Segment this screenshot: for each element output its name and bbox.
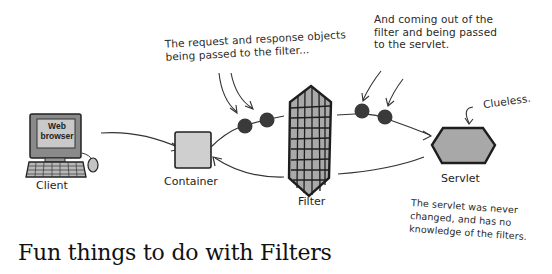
passed-object-ball <box>355 104 370 119</box>
filter-shape <box>289 86 331 196</box>
annotation-servlet-note: The servlet was never changed, and has n… <box>409 196 529 243</box>
annotation-line: filter and being passed <box>374 26 497 39</box>
screen-line-web: Web <box>39 121 75 131</box>
container-label: Container <box>164 175 218 188</box>
passed-object-ball <box>378 110 393 125</box>
request-object-ball <box>238 119 253 134</box>
response-object-ball <box>260 113 275 128</box>
filter-label: Filter <box>298 195 325 208</box>
annotation-line: And coming out of the <box>374 13 497 26</box>
section-title: Fun things to do with Filters <box>18 240 332 265</box>
arrow-client-to-container <box>101 133 180 148</box>
line-filter-to-container <box>215 158 284 177</box>
client-screen-text: Web browser <box>39 121 75 141</box>
container-box <box>175 132 211 168</box>
servlet-label: Servlet <box>441 172 480 185</box>
client-label: Client <box>36 179 68 192</box>
screen-line-browser: browser <box>39 131 75 141</box>
annotation-coming-out: And coming out of the filter and being p… <box>374 13 497 51</box>
line-servlet-to-filter <box>338 157 424 174</box>
annotation-line: to the servlet. <box>374 38 497 51</box>
servlet-shape <box>432 128 495 163</box>
